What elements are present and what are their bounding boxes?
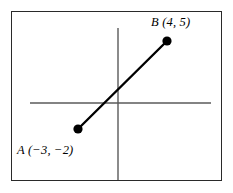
- point-marker-b: [162, 36, 171, 45]
- point-label-b: B (4, 5): [151, 15, 190, 30]
- segment-ab: [78, 41, 167, 129]
- point-label-a: A (−3, −2): [17, 143, 73, 158]
- graph-canvas: [0, 0, 233, 193]
- point-marker-a: [73, 124, 82, 133]
- coordinate-plane-figure: B (4, 5) A (−3, −2): [0, 0, 233, 193]
